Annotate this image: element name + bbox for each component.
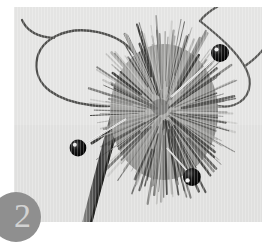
figure-index-number: 2 [1, 199, 31, 235]
specimen-photo [14, 7, 262, 222]
specimen-illustration [14, 7, 262, 222]
figure-panel: 2 [0, 0, 270, 249]
